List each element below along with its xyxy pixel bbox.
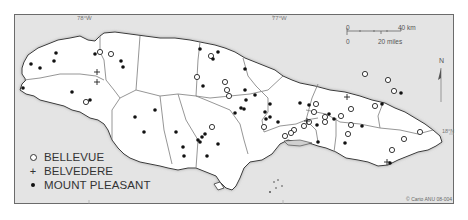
bellevue-marker-icon: [194, 74, 199, 79]
mount-pleasant-marker-icon: [243, 67, 247, 71]
bellevue-marker-icon: [391, 88, 396, 93]
scale-km-start: 0: [346, 24, 350, 31]
mount-pleasant-marker-icon: [327, 112, 331, 116]
mount-pleasant-marker-icon: [360, 124, 364, 128]
mount-pleasant-marker-icon: [253, 93, 257, 97]
mount-pleasant-marker-icon: [182, 154, 186, 158]
north-label: N: [439, 57, 444, 64]
bellevue-marker-icon: [417, 129, 422, 134]
longitude-label-78w: 78°W: [77, 15, 92, 21]
legend-label: MOUNT PLEASANT: [44, 179, 151, 192]
bellevue-marker-icon: [348, 122, 353, 127]
mount-pleasant-marker-icon: [239, 106, 243, 110]
mount-pleasant-marker-icon: [399, 91, 403, 95]
mount-pleasant-marker-icon: [200, 135, 204, 139]
mount-pleasant-marker-icon: [121, 65, 125, 69]
cays: [269, 179, 283, 193]
map-credit: © Carto ANU 08-004: [406, 196, 452, 202]
mount-pleasant-marker-icon: [52, 59, 56, 63]
bellevue-marker-icon: [222, 79, 227, 84]
mount-pleasant-marker-icon: [153, 108, 157, 112]
bellevue-marker-icon: [389, 147, 394, 152]
mount-pleasant-marker-icon: [307, 103, 311, 107]
bellevue-marker-icon: [224, 87, 229, 92]
mount-pleasant-marker-icon: [198, 140, 202, 144]
bellevue-marker-icon: [313, 101, 318, 106]
mount-pleasant-marker-icon: [21, 86, 25, 90]
mount-pleasant-marker-icon: [93, 52, 97, 56]
mount-pleasant-marker-icon: [203, 132, 207, 136]
scale-bar: [347, 28, 401, 35]
legend-item-belvedere: + BELVEDERE: [26, 164, 151, 178]
bellevue-marker-icon: [401, 136, 406, 141]
legend-item-bellevue: BELLEVUE: [26, 150, 151, 164]
mount-pleasant-marker-icon: [268, 102, 272, 106]
bellevue-marker-icon: [301, 123, 306, 128]
bellevue-marker-icon: [322, 114, 327, 119]
legend-item-mount-pleasant: MOUNT PLEASANT: [26, 178, 151, 192]
bellevue-marker-icon: [83, 99, 88, 104]
north-arrow-icon: [438, 68, 441, 102]
bellevue-marker-icon: [261, 124, 266, 129]
mount-pleasant-marker-icon: [332, 117, 336, 121]
bellevue-marker-icon: [226, 93, 231, 98]
mount-pleasant-marker-icon: [243, 88, 247, 92]
mount-pleasant-marker-icon: [38, 66, 42, 70]
latitude-label-18n: 18°N: [442, 128, 454, 134]
bellevue-marker-icon: [311, 109, 316, 114]
longitude-label-77w: 77°W: [272, 15, 287, 21]
bellevue-marker-icon: [372, 103, 377, 108]
bellevue-marker-icon: [209, 124, 214, 129]
mount-pleasant-marker-icon: [388, 161, 392, 165]
legend-label: BELVEDERE: [44, 165, 113, 178]
mount-pleasant-marker-icon: [298, 101, 302, 105]
mount-pleasant-marker-icon: [133, 115, 137, 119]
bellevue-marker-icon: [338, 113, 343, 118]
scale-km-end: 40 km: [398, 24, 416, 31]
mount-pleasant-marker-icon: [343, 141, 347, 145]
mount-pleasant-marker-icon: [54, 51, 58, 55]
mount-pleasant-marker-icon: [276, 120, 280, 124]
bellevue-marker-icon: [97, 49, 102, 54]
legend-label: BELLEVUE: [44, 151, 104, 164]
scale-mi-start: 0: [346, 38, 350, 45]
mount-pleasant-marker-icon: [174, 130, 178, 134]
plus-icon: +: [26, 166, 40, 176]
mount-pleasant-marker-icon: [380, 102, 384, 106]
mount-pleasant-marker-icon: [29, 62, 33, 66]
map-legend: BELLEVUE + BELVEDERE MOUNT PLEASANT: [26, 150, 151, 192]
mount-pleasant-marker-icon: [268, 115, 272, 119]
bellevue-marker-icon: [348, 106, 353, 111]
open-circle-icon: [26, 154, 40, 161]
mount-pleasant-marker-icon: [181, 145, 185, 149]
mount-pleasant-marker-icon: [119, 59, 123, 63]
mount-pleasant-marker-icon: [264, 117, 268, 121]
mount-pleasant-marker-icon: [70, 90, 74, 94]
mount-pleasant-marker-icon: [205, 154, 209, 158]
bellevue-marker-icon: [108, 51, 113, 56]
filled-dot-icon: [26, 183, 40, 187]
mount-pleasant-marker-icon: [263, 110, 267, 114]
mount-pleasant-marker-icon: [88, 98, 92, 102]
mount-pleasant-marker-icon: [315, 123, 319, 127]
scale-mi-end: 20 miles: [378, 38, 402, 45]
mount-pleasant-marker-icon: [216, 50, 220, 54]
bellevue-marker-icon: [385, 77, 390, 82]
mount-pleasant-marker-icon: [244, 98, 248, 102]
bellevue-marker-icon: [282, 133, 287, 138]
bellevue-marker-icon: [322, 119, 327, 124]
bellevue-marker-icon: [362, 71, 367, 76]
mount-pleasant-marker-icon: [216, 142, 220, 146]
mount-pleasant-marker-icon: [316, 140, 320, 144]
mount-pleasant-marker-icon: [201, 84, 205, 88]
mount-pleasant-marker-icon: [198, 47, 202, 51]
bellevue-marker-icon: [288, 130, 293, 135]
mount-pleasant-marker-icon: [211, 57, 215, 61]
mount-pleasant-marker-icon: [233, 111, 237, 115]
bellevue-marker-icon: [345, 131, 350, 136]
mount-pleasant-marker-icon: [142, 130, 146, 134]
